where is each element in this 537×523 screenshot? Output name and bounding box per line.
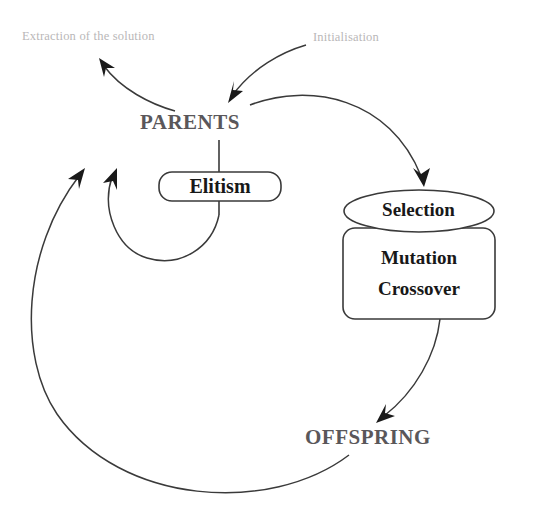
- arrowhead-parents-outer: [68, 168, 85, 189]
- annotation-initialisation: Initialisation: [313, 30, 379, 45]
- node-elitism-label: Elitism: [163, 174, 277, 198]
- node-parents: PARENTS: [140, 110, 240, 135]
- edge-variation-to-offspring: [384, 319, 440, 416]
- node-crossover-label: Crossover: [348, 273, 490, 304]
- edge-parents-to-selection: [250, 95, 421, 176]
- annotation-extraction-of-the-solution: Extraction of the solution: [22, 29, 155, 44]
- arrowhead-selection: [413, 168, 430, 187]
- node-offspring: OFFSPRING: [305, 425, 431, 450]
- edge-parents-to-extraction: [104, 66, 175, 111]
- arrowhead-extraction: [99, 58, 115, 77]
- edge-offspring-to-parents: [31, 176, 349, 493]
- evolutionary-algorithm-diagram: PARENTS OFFSPRING Extraction of the solu…: [0, 0, 537, 523]
- arrowhead-offspring: [376, 404, 395, 423]
- edge-initialisation-to-parents: [232, 45, 306, 96]
- node-variation-labels: Mutation Crossover: [348, 242, 490, 304]
- node-selection-label: Selection: [352, 198, 485, 222]
- node-mutation-label: Mutation: [348, 242, 490, 273]
